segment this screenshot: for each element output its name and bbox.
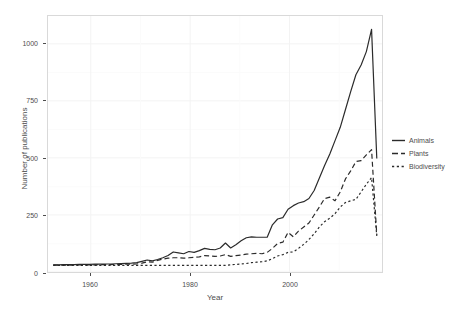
solid-line-key-icon <box>391 135 406 146</box>
legend-item-animals[interactable]: Animals <box>391 134 449 147</box>
y-tick-label-1000: 1000 <box>22 40 38 47</box>
x-tick-mark-1960 <box>90 273 91 276</box>
chart-legend: Animals Plants Biodiversity <box>389 131 451 176</box>
dotted-line-key-icon <box>391 161 406 172</box>
y-axis-title: Number of publications <box>20 69 29 229</box>
x-tick-mark-1980 <box>190 273 191 276</box>
x-axis-tick-labels: 1960 1980 2000 <box>0 277 454 291</box>
legend-item-biodiversity[interactable]: Biodiversity <box>391 160 449 173</box>
x-tick-label-1960: 1960 <box>82 281 98 288</box>
legend-label-animals: Animals <box>406 136 434 145</box>
line-series-animals <box>53 29 377 265</box>
x-tick-label-2000: 2000 <box>282 281 298 288</box>
x-tick-mark-2000 <box>290 273 291 276</box>
legend-item-plants[interactable]: Plants <box>391 147 449 160</box>
dashed-line-key-icon <box>391 148 406 159</box>
line-series-plants <box>53 150 377 266</box>
chart-figure: 1000 750 500 250 0 <box>0 0 454 316</box>
x-axis-title: Year <box>47 293 383 302</box>
plot-panel <box>47 15 383 273</box>
data-series-layer <box>48 16 382 272</box>
line-series-biodiversity <box>53 178 377 266</box>
y-tick-mark-250 <box>43 215 46 216</box>
legend-label-plants: Plants <box>406 149 428 158</box>
legend-label-biodiversity: Biodiversity <box>406 162 445 171</box>
y-tick-label-0: 0 <box>34 270 38 277</box>
y-tick-mark-0 <box>43 273 46 274</box>
y-tick-mark-1000 <box>43 43 46 44</box>
y-tick-mark-500 <box>43 158 46 159</box>
x-tick-label-1980: 1980 <box>182 281 198 288</box>
y-tick-mark-750 <box>43 100 46 101</box>
